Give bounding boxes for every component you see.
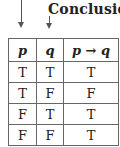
arrow-down-icon [18, 22, 24, 28]
cell: F [9, 104, 37, 125]
cell: F [64, 83, 119, 104]
header-q: q [37, 39, 64, 62]
cell: T [64, 62, 119, 83]
truth-table: p q p → q T T T T F F F T T F F T [8, 38, 119, 146]
table-row: F F T [9, 125, 119, 146]
cell: F [9, 125, 37, 146]
cell: T [64, 104, 119, 125]
table-row: F T T [9, 104, 119, 125]
conclusion-label: Conclusion [48, 1, 120, 17]
arrow-down-icon [46, 23, 52, 29]
cell: T [37, 62, 64, 83]
cell: F [37, 125, 64, 146]
cell: T [64, 125, 119, 146]
cell: F [37, 83, 64, 104]
header-row: p q p → q [9, 39, 119, 62]
table-row: T F F [9, 83, 119, 104]
header-implication: p → q [64, 39, 119, 62]
cell: T [9, 83, 37, 104]
arrow-p-line [21, 0, 22, 24]
header-p: p [9, 39, 37, 62]
cell: T [9, 62, 37, 83]
table-row: T T T [9, 62, 119, 83]
cell: T [37, 104, 64, 125]
